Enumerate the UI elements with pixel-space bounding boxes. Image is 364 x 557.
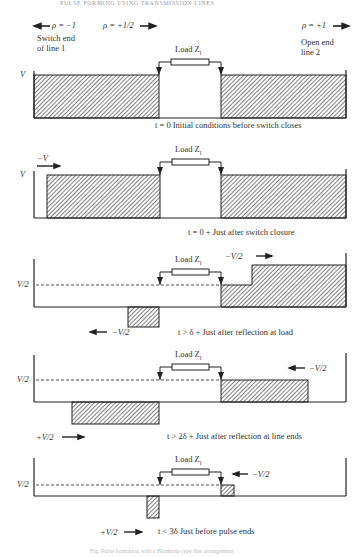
wave-label-panel-2: −V [37,154,48,163]
panel-5 [34,458,346,532]
caption-panel-2: t = 0 + Just after switch closure [188,228,295,237]
load-label: Load Zl [175,145,201,158]
wave-label-panel-5-backward: −V/2 [252,470,270,479]
load-label: Load Zl [175,45,201,58]
open-end-label-1: Open end [301,38,334,47]
switch-end-label-1: Switch end [37,34,75,43]
caption-panel-3: t > δ + Just after reflection at load [178,328,293,337]
caption-panel-4: t > 2δ + Just after reflection at line e… [167,432,302,441]
caption-panel-5: t < 3δ Just before pulse ends [158,527,255,536]
load-resistor-icon [157,469,224,485]
open-end-label-2: line 2 [301,48,320,57]
wave-label-panel-3-backward: −V/2 [112,328,130,337]
y-label-panel-4: V/2 [17,375,29,384]
wave-label-panel-5-forward: +V/2 [100,528,118,537]
load-resistor-icon [157,364,224,380]
panel-2 [34,159,346,218]
load-subscript: l [200,355,202,361]
load-subscript: l [200,260,202,266]
load-label-text: Load Z [175,254,200,264]
load-label-text: Load Z [175,144,200,154]
rho-load: ρ = +1/2 [103,21,134,30]
load-resistor-icon [157,269,224,285]
y-label-panel-5: V/2 [17,480,29,489]
load-label: Load Zl [175,455,201,468]
load-subscript: l [200,460,202,466]
rho-open-end: ρ = +1 [302,21,326,30]
wave-label-panel-4-backward: −V/2 [309,364,327,373]
load-label-text: Load Z [175,349,200,359]
load-label: Load Zl [175,255,201,268]
y-label-panel-1: V [20,70,25,79]
rho-switch-end: ρ = −1 [52,21,76,30]
load-subscript: l [200,150,202,156]
load-resistor-icon [156,59,224,75]
y-label-panel-2: V [20,170,25,179]
load-label: Load Zl [175,350,201,363]
switch-end-label-2: of line 1 [37,44,65,53]
caption-panel-1: t = 0 Initial conditions before switch c… [155,121,302,130]
load-resistor-icon [157,159,224,175]
load-subscript: l [200,50,202,56]
wave-label-panel-3-forward: −V/2 [225,252,243,261]
diagram-canvas [0,0,364,557]
load-label-text: Load Z [175,454,200,464]
panel-4 [34,353,346,437]
panel-1 [34,59,346,118]
wave-label-panel-4-forward: +V/2 [36,433,54,442]
figure-caption-fragment: Fig. Pulse formation with a Blumlein-typ… [90,548,234,554]
load-label-text: Load Z [175,44,200,54]
y-label-panel-3: V/2 [17,280,29,289]
